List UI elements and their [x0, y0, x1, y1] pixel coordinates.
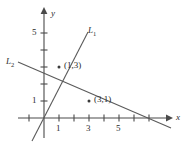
x-tick-label-5: 5 [116, 124, 121, 133]
point-label-3-1: (3,1) [94, 95, 111, 104]
x-tick-label-1: 1 [56, 124, 61, 133]
y-axis-label: y [51, 9, 55, 18]
line-label-L2: L2 [6, 57, 14, 68]
x-axis [18, 115, 173, 122]
y-tick-label-1: 1 [32, 96, 37, 105]
y-tick-label-5: 5 [32, 28, 37, 37]
coordinate-plane-figure: y x 1 3 5 1 5 L1 L2 (1,3) (3,1) [0, 0, 187, 144]
line-label-L1-sub: 1 [93, 30, 96, 37]
line-label-L2-sub: 2 [11, 61, 14, 68]
x-axis-label: x [176, 113, 180, 122]
point-label-1-3: (1,3) [64, 61, 81, 70]
line-label-L1: L1 [88, 26, 96, 37]
data-point-3-1 [88, 100, 91, 103]
data-point-1-3 [58, 66, 61, 69]
x-tick-label-3: 3 [86, 124, 91, 133]
graph-canvas [0, 0, 187, 144]
